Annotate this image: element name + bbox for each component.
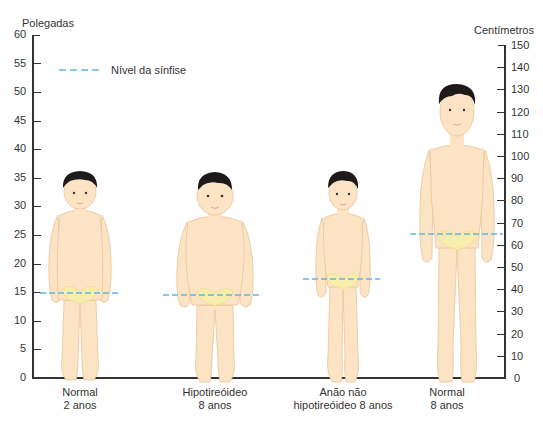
caption-line: Normal xyxy=(40,386,120,399)
figure-normal-8-anos xyxy=(420,84,494,382)
caption-line: hipotireóideo 8 anos xyxy=(283,399,403,412)
figure-anao-nao-hipotireoideo-8-anos xyxy=(316,171,371,382)
caption-line: 2 anos xyxy=(40,399,120,412)
caption-figure-3: Anão não hipotireóideo 8 anos xyxy=(283,386,403,412)
figure-hipotireoideo-8-anos xyxy=(177,172,253,382)
caption-figure-1: Normal 2 anos xyxy=(40,386,120,412)
caption-figure-2: Hipotireóideo 8 anos xyxy=(165,386,265,412)
caption-figure-4: Normal 8 anos xyxy=(417,386,477,412)
caption-line: Hipotireóideo xyxy=(165,386,265,399)
caption-line: Anão não xyxy=(283,386,403,399)
figure-normal-2-anos xyxy=(49,171,111,380)
caption-line: Normal xyxy=(417,386,477,399)
figures-illustration xyxy=(0,0,543,422)
caption-line: 8 anos xyxy=(165,399,265,412)
caption-line: 8 anos xyxy=(417,399,477,412)
